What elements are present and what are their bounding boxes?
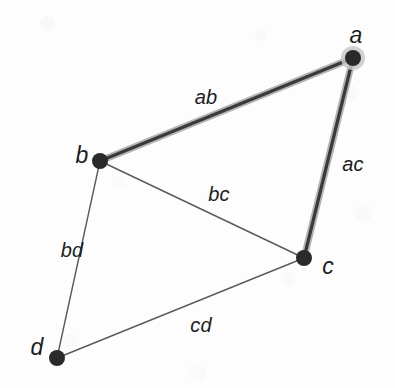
node-d[interactable] <box>49 350 65 366</box>
node-label-d: d <box>31 334 44 361</box>
edge-label-cd: cd <box>190 314 212 337</box>
node-label-a: a <box>350 22 363 49</box>
node-b[interactable] <box>92 153 108 169</box>
node-label-b: b <box>76 142 89 169</box>
thin-edge-group <box>57 161 304 358</box>
edge-bc <box>100 161 304 258</box>
diagram-canvas: a b c d ab ac bc bd cd <box>0 0 395 388</box>
node-a[interactable] <box>345 50 361 66</box>
thick-edge-group <box>100 58 353 258</box>
edge-label-bd: bd <box>61 239 84 262</box>
node-c[interactable] <box>296 250 312 266</box>
edge-label-ab: ab <box>195 86 218 109</box>
edge-label-ac: ac <box>342 153 364 176</box>
node-label-c: c <box>322 253 334 280</box>
edge-cd <box>57 258 304 358</box>
edge-label-bc: bc <box>208 183 230 206</box>
edge-ab <box>100 58 353 161</box>
